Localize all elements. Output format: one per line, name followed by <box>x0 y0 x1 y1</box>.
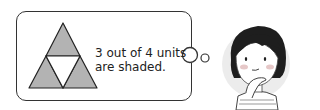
thought-circle-small <box>201 54 209 62</box>
top-shaded-unit <box>46 23 80 56</box>
shaded-triangle-figure <box>29 23 97 88</box>
girl-character <box>222 26 290 110</box>
bubble-text-line2: are shaded. <box>95 60 186 74</box>
bubble-text: 3 out of 4 units are shaded. <box>95 46 186 74</box>
bubble-text-line1: 3 out of 4 units <box>95 46 186 60</box>
